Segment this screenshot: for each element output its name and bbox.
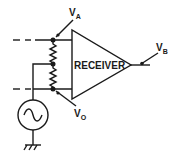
probe-dot bbox=[140, 62, 144, 66]
va-label: VA bbox=[69, 7, 81, 20]
resistor-upper-icon bbox=[50, 40, 56, 64]
probe-dot bbox=[56, 33, 59, 36]
receiver-label: RECEIVER bbox=[74, 60, 126, 71]
junction-dot bbox=[51, 62, 56, 67]
probe-vb bbox=[141, 53, 158, 64]
junction-dot bbox=[51, 87, 56, 92]
probe-dot bbox=[56, 91, 59, 94]
resistor-lower-icon bbox=[50, 64, 56, 89]
circuit-diagram: RECEIVER VA VB VO bbox=[0, 0, 189, 163]
vo-label: VO bbox=[74, 108, 87, 121]
sine-wave-icon bbox=[24, 109, 42, 121]
ground-icon bbox=[24, 145, 41, 150]
junction-dot bbox=[51, 38, 56, 43]
tap-wire bbox=[33, 64, 53, 100]
